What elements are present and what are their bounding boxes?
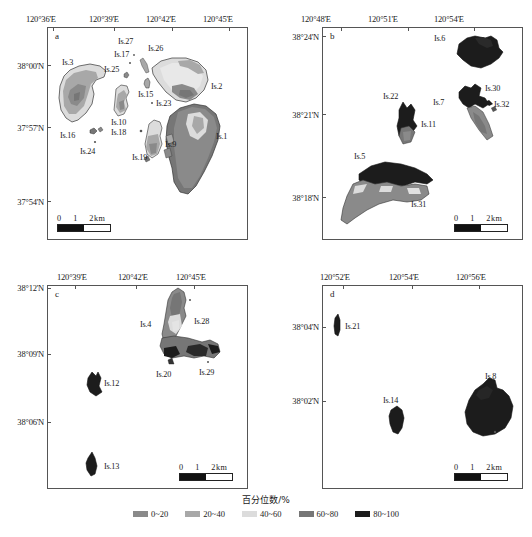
lat-tick-label: 38°18'N	[275, 193, 319, 203]
island-label: Is.5	[354, 152, 365, 161]
figure-legend: 百分位数/% 0~20 20~40 40~60 60~80 80~100	[0, 493, 532, 519]
scale-tick-0: 0	[454, 214, 459, 223]
island-label: Is.23	[156, 99, 171, 108]
lat-tick-label: 38°21'N	[275, 110, 319, 120]
scale-bar: 0 1 2km	[179, 463, 233, 481]
scale-tick-2: 2km	[211, 463, 227, 472]
scale-tick-1: 1	[73, 214, 78, 223]
island-label: Is.11	[421, 120, 436, 129]
panel-b-frame: b Is.6 Is.30 Is.7 Is.32 Is.22	[322, 27, 523, 240]
island-label: Is.31	[411, 200, 426, 209]
legend-item: 60~80	[299, 509, 339, 519]
island-label: Is.10	[111, 118, 126, 127]
lat-tick-label: 38°24'N	[275, 32, 319, 42]
island-label: Is.28	[194, 317, 209, 326]
legend-item: 80~100	[355, 509, 399, 519]
lon-tick-label: 120°54'E	[389, 272, 419, 282]
island-label: Is.22	[383, 92, 398, 101]
island-label: Is.13	[104, 462, 119, 471]
panel-d-frame: d Is.21 Is.8 Is.14 0 1 2km	[322, 285, 523, 489]
island-label: Is.24	[80, 147, 95, 156]
island-label: Is.1	[216, 132, 227, 141]
legend-item: 0~20	[133, 509, 168, 519]
lon-tick-label: 120°48'E	[301, 14, 331, 24]
island-label: Is.32	[494, 100, 509, 109]
scale-tick-0: 0	[57, 214, 62, 223]
lat-tick-label: 38°02'N	[275, 396, 319, 406]
lon-tick-label: 120°52'E	[320, 272, 350, 282]
legend-swatch	[185, 511, 200, 517]
lon-tick-label: 120°45'E	[176, 272, 206, 282]
island-label: Is.26	[148, 44, 163, 53]
lon-tick-label: 120°54'E	[434, 14, 464, 24]
island-label: Is.27	[118, 37, 133, 46]
scale-bar: 0 1 2km	[454, 463, 508, 481]
island-label: Is.21	[345, 322, 360, 331]
island-label: Is.8	[485, 372, 496, 381]
legend-label: 60~80	[317, 509, 339, 519]
lat-tick-label: 38°12'N	[0, 283, 44, 293]
legend-title: 百分位数/%	[0, 493, 532, 506]
lon-tick-label: 120°39'E	[57, 272, 87, 282]
legend-swatch	[133, 511, 148, 517]
island-label: Is.6	[434, 34, 445, 43]
island-label: Is.16	[60, 131, 75, 140]
legend-swatch	[299, 511, 314, 517]
island-label: Is.30	[485, 84, 500, 93]
island-label: Is.12	[104, 379, 119, 388]
legend-swatch	[355, 511, 370, 517]
lat-tick-label: 38°00'N	[0, 61, 44, 71]
island-label: Is.15	[138, 90, 153, 99]
lon-tick-label: 120°56'E	[456, 272, 486, 282]
legend-item: 40~60	[242, 509, 282, 519]
lat-tick-label: 37°57'N	[0, 123, 44, 133]
island-label: Is.2	[211, 82, 222, 91]
lon-tick-label: 120°39'E	[89, 14, 119, 24]
panel-c-map	[48, 286, 247, 488]
lat-tick-label: 38°06'N	[0, 417, 44, 427]
legend-label: 20~40	[203, 509, 225, 519]
legend-label: 40~60	[260, 509, 282, 519]
island-label: Is.25	[104, 65, 119, 74]
island-label: Is.4	[140, 320, 151, 329]
scale-bar: 0 1 2km	[57, 214, 111, 232]
panel-a-frame: a	[47, 27, 248, 240]
lon-tick-label: 120°36'E	[26, 14, 56, 24]
scale-tick-2: 2km	[486, 463, 502, 472]
lon-tick-label: 120°42'E	[146, 14, 176, 24]
scale-tick-0: 0	[179, 463, 184, 472]
scale-tick-1: 1	[470, 463, 475, 472]
lon-tick-label: 120°45'E	[203, 14, 233, 24]
legend-items: 0~20 20~40 40~60 60~80 80~100	[0, 509, 532, 519]
legend-swatch	[242, 511, 257, 517]
scale-bar: 0 1 2km	[454, 214, 508, 232]
island-label: Is.29	[199, 368, 214, 377]
island-label: Is.18	[111, 128, 126, 137]
legend-item: 20~40	[185, 509, 225, 519]
island-label: Is.3	[62, 58, 73, 67]
scale-tick-2: 2km	[486, 214, 502, 223]
panel-c-frame: c Is.4 Is.28 Is.20 Is.29 Is.12 Is.13	[47, 285, 248, 489]
legend-label: 80~100	[373, 509, 399, 519]
lon-tick-label: 120°51'E	[368, 14, 398, 24]
scale-tick-1: 1	[470, 214, 475, 223]
island-label: Is.14	[383, 396, 398, 405]
panel-d-map	[323, 286, 522, 488]
scale-tick-1: 1	[195, 463, 200, 472]
lat-tick-label: 37°54'N	[0, 197, 44, 207]
scale-tick-0: 0	[454, 463, 459, 472]
island-label: Is.19	[132, 153, 147, 162]
scale-tick-2: 2km	[89, 214, 105, 223]
island-label: Is.17	[114, 50, 129, 59]
legend-label: 0~20	[151, 509, 168, 519]
island-label: Is.9	[165, 140, 176, 149]
island-label: Is.7	[433, 98, 444, 107]
lat-tick-label: 38°04'N	[275, 322, 319, 332]
island-label: Is.20	[156, 370, 171, 379]
lon-tick-label: 120°42'E	[118, 272, 148, 282]
lat-tick-label: 38°09'N	[0, 349, 44, 359]
